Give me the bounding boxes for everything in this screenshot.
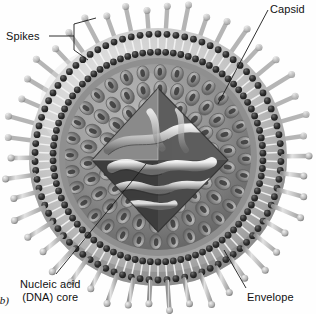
lipid-head [230,226,237,233]
lipid-head [38,114,45,121]
spike [272,93,298,107]
lipid-head [177,51,184,58]
spike [166,282,173,314]
lipid-head [139,50,146,57]
lipid-head [110,249,117,256]
lipid-head [50,165,57,172]
lipid-head [258,173,265,180]
spike [24,223,51,241]
spike [244,248,269,274]
spike [278,111,309,123]
lipid-head [259,142,266,149]
lipid-head [97,66,104,73]
lipid-head [173,275,180,282]
lipid-head [230,56,237,63]
lipid-head [207,42,214,49]
lipid-head [55,82,62,89]
label-capsid: Capsid [270,3,305,16]
spike [254,56,279,77]
lipid-head [219,70,226,77]
lipid-head [73,62,80,69]
spike [243,44,263,65]
spike [164,3,171,32]
lipid-head [192,56,199,63]
spike [264,71,295,91]
lipid-head [248,106,255,113]
lipid-head [53,127,60,134]
lipid-head [255,225,262,232]
lipid-head [74,221,81,228]
lipid-head [50,142,57,149]
lipid-head [277,140,284,147]
spike [122,3,132,35]
lipid-head [243,239,250,246]
lipid-head [271,114,278,121]
lipid-head [240,215,247,222]
spike [279,190,308,200]
lipid-head [190,36,197,43]
lipid-head [199,39,206,46]
lipid-head [32,140,39,147]
lipid-head [164,31,171,38]
lipid-head [61,202,68,209]
lipid-head [69,215,76,222]
lipid-head [55,225,62,232]
lipid-head [155,259,162,266]
lipid-head [271,193,278,200]
lipid-head [155,31,162,38]
label-nucleic-acid-core: Nucleic acid (DNA) core [20,278,81,304]
lipid-head [244,99,251,106]
lipid-head [103,245,110,252]
lipid-head [69,93,76,100]
lipid-head [79,81,86,88]
spike [199,14,210,39]
lipid-head [147,49,154,56]
spike [11,208,44,224]
lipid-head [162,49,169,56]
lipid-head [177,256,184,263]
lipid-head [79,251,86,258]
label-envelope: Envelope [247,291,294,304]
spike [273,206,304,221]
spike [283,153,312,160]
lipid-head [213,241,220,248]
lipid-head [264,97,271,104]
lipid-head [260,150,267,157]
lipid-head [215,46,222,53]
lipid-head [85,75,92,82]
lipid-head [207,265,214,272]
spike [5,113,37,124]
lipid-head [254,120,261,127]
lipid-head [90,237,97,244]
lipid-head [32,149,39,156]
lipid-head [256,180,263,187]
lipid-head [192,252,199,259]
lipid-head [185,254,192,261]
lipid-head [51,173,58,180]
spike [49,249,74,275]
lipid-head [162,258,169,265]
lipid-head [170,50,177,57]
capsomere [150,234,162,250]
lipid-head [94,46,101,53]
lipid-head [240,93,247,100]
spike [5,134,34,141]
virus-structure-figure: Spikes Capsid Envelope Nucleic acid (DNA… [0,0,316,314]
lipid-head [258,135,265,142]
lipid-head [90,70,97,77]
capsomere [154,64,166,80]
lipid-head [230,81,237,88]
lipid-head [235,86,242,93]
spike [10,192,38,202]
figure-panel-letter: (b) [0,294,9,306]
lipid-head [185,53,192,60]
lipid-head [206,62,213,69]
lipid-head [259,165,266,172]
lipid-head [256,127,263,134]
lipid-head [276,176,283,183]
lipid-head [255,82,262,89]
lipid-head [170,257,177,264]
lipid-head [235,221,242,228]
lipid-head [65,208,72,215]
lipid-head [199,249,206,256]
